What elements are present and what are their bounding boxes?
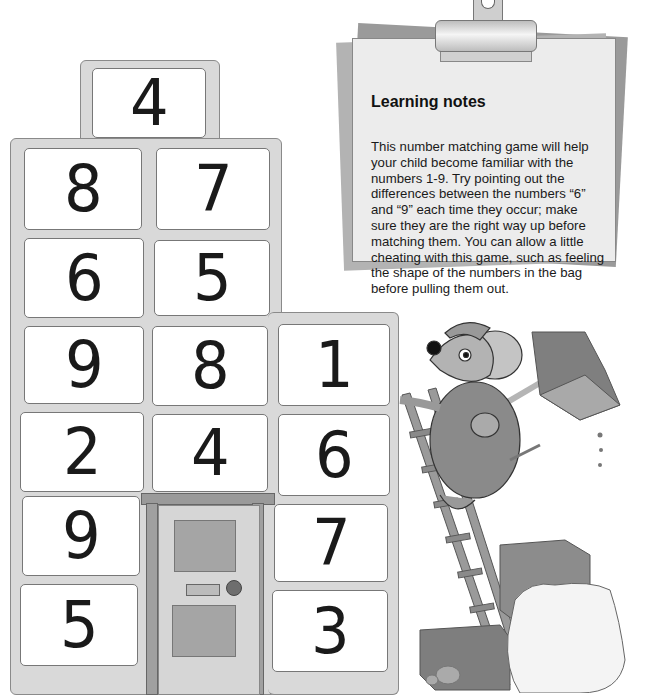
door-panel-top [174,520,236,572]
number-tile[interactable]: 9 [24,326,144,404]
number-tile[interactable]: 4 [92,68,206,138]
door-knob [226,580,242,596]
mouse-illustration [380,290,650,693]
number-tile[interactable]: 6 [278,414,390,496]
number-tile[interactable]: 7 [156,148,270,230]
number-tile[interactable]: 8 [24,148,142,230]
number-tile[interactable]: 5 [154,240,270,316]
learning-notes-body: This number matching game will help your… [371,139,606,297]
number-tile[interactable]: 5 [20,584,138,666]
bulldog-clip-icon [435,20,537,52]
learning-notes-title: Learning notes [371,93,486,111]
number-tile[interactable]: 4 [152,414,268,492]
number-tile[interactable]: 2 [20,412,144,492]
learning-notes-card: Learning notes This number matching game… [352,38,616,262]
letter-slot [186,584,220,596]
door-post-left [146,503,158,695]
number-tile[interactable]: 9 [22,496,140,576]
mouse-icon [400,323,540,509]
pebble [426,675,438,685]
sack-icon [508,583,626,693]
pebble [436,666,460,684]
number-tile[interactable]: 1 [278,324,390,406]
number-tile[interactable]: 3 [272,590,388,672]
number-tile[interactable]: 8 [152,326,268,406]
door-panel-bottom [172,605,236,657]
number-tile[interactable]: 7 [274,504,388,582]
number-tile[interactable]: 6 [24,238,144,318]
